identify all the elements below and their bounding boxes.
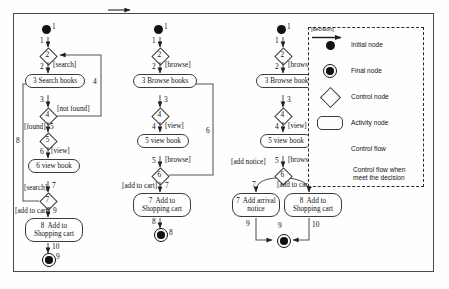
edge-guard-c1e8: [search] xyxy=(24,185,47,193)
diagram-canvas: 1 2 3Search books 4 5 6view book 7 8Add … xyxy=(0,0,449,289)
activity-c1n6[interactable]: 6view book xyxy=(28,159,80,173)
activity-text-c1n6: view book xyxy=(42,162,72,170)
edge-guard-c1e9: [add to cart] xyxy=(15,208,50,216)
legend-row-decision: [decision] Control flow when meet the de… xyxy=(309,160,425,188)
edge-num-c1e4: 4 xyxy=(93,78,97,86)
node-label-c1n7: 7 xyxy=(46,196,50,204)
legend-decision-line2: meet the decision xyxy=(353,174,419,182)
edge-guard-c1e2: [search] xyxy=(53,62,76,70)
activity-c1n8[interactable]: 8Add to Shopping cart xyxy=(25,218,83,242)
activity-text-c1n8: Add to Shopping cart xyxy=(34,222,74,238)
edge-num-c1e6: 6 xyxy=(40,148,44,156)
node-label-c1n2: 2 xyxy=(46,51,50,59)
node-label-c1n5: 5 xyxy=(46,136,50,144)
node-initial-c1[interactable] xyxy=(42,25,51,34)
decision-flow-arrow: [decision] xyxy=(309,26,353,289)
activity-num-c1n6: 6 xyxy=(36,162,40,170)
node-final-c1n9[interactable] xyxy=(42,253,56,267)
legend-label-decision: Control flow when meet the decision xyxy=(353,166,419,182)
node-label-c1n1: 1 xyxy=(52,23,56,31)
edge-num-c1e3: 3 xyxy=(40,96,44,104)
edge-num-c1e1: 1 xyxy=(40,37,44,45)
activity-num-c1n8: 8 xyxy=(41,222,45,230)
edge-guard-c1e4: [not found] xyxy=(57,106,90,114)
legend-decision-guard: [decision] xyxy=(311,26,334,33)
legend-box: Initial node Final node Control node Act… xyxy=(308,27,424,187)
edge-num-c1e2: 2 xyxy=(40,63,44,71)
activity-text-c1n3: Search books xyxy=(39,77,78,85)
edge-num-c1e7: 7 xyxy=(52,182,56,190)
edge-num-c1e9: 9 xyxy=(53,207,57,215)
edge-num-c1e10: 10 xyxy=(52,243,59,251)
activity-c1n3[interactable]: 3Search books xyxy=(25,74,85,88)
edge-guard-c1e5: [found] xyxy=(24,124,46,132)
edge-num-c1e5: 5 xyxy=(50,123,54,131)
legend-decision-line1: Control flow when xyxy=(353,166,419,174)
edge-num-c1e8: 8 xyxy=(16,137,20,145)
activity-num-c1n3: 3 xyxy=(33,77,37,85)
node-label-c1n9: 9 xyxy=(56,253,60,261)
edge-guard-c1e6: [view] xyxy=(51,148,70,156)
node-label-c1n4: 4 xyxy=(46,111,50,119)
